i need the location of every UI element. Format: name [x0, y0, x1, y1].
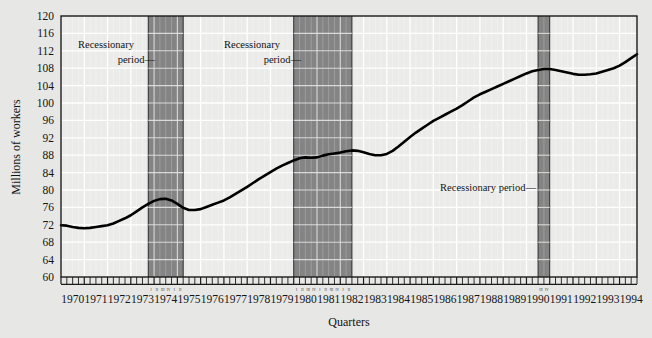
employment-line-chart: 12011611210810410096928884807672686460 1… — [0, 0, 652, 338]
svg-text:64: 64 — [43, 254, 55, 266]
svg-text:IV: IV — [312, 288, 316, 292]
svg-text:1970: 1970 — [61, 293, 84, 305]
svg-text:1989: 1989 — [503, 293, 526, 305]
chart-figure: 12011611210810410096928884807672686460 1… — [0, 0, 652, 338]
svg-text:88: 88 — [43, 149, 55, 161]
x-axis-tick-labels: 1970197119721973197419751976197719781979… — [61, 293, 643, 305]
svg-text:1979: 1979 — [271, 293, 294, 305]
y-axis-title: Millions of workers — [9, 99, 23, 195]
svg-text:III: III — [161, 288, 164, 292]
annotation-2-line2: period— — [264, 54, 302, 65]
svg-text:II: II — [348, 288, 350, 292]
svg-text:II: II — [301, 288, 303, 292]
svg-text:1988: 1988 — [480, 293, 503, 305]
annotation-1-line2: period— — [118, 54, 156, 65]
svg-text:I: I — [343, 288, 344, 292]
svg-text:100: 100 — [37, 97, 55, 109]
svg-text:84: 84 — [43, 167, 55, 179]
svg-text:I: I — [151, 288, 152, 292]
svg-text:96: 96 — [43, 114, 55, 126]
svg-text:108: 108 — [37, 62, 55, 74]
svg-text:1994: 1994 — [620, 293, 643, 305]
svg-text:1972: 1972 — [108, 293, 131, 305]
svg-text:1992: 1992 — [573, 293, 596, 305]
svg-text:1974: 1974 — [154, 293, 177, 305]
svg-text:112: 112 — [37, 45, 54, 57]
svg-text:1993: 1993 — [596, 293, 619, 305]
svg-text:II: II — [325, 288, 327, 292]
svg-text:1976: 1976 — [201, 293, 224, 305]
svg-text:IV: IV — [336, 288, 340, 292]
svg-text:IV: IV — [167, 288, 171, 292]
svg-text:II: II — [179, 288, 181, 292]
svg-text:1977: 1977 — [224, 293, 247, 305]
svg-text:1990: 1990 — [527, 293, 550, 305]
svg-text:1981: 1981 — [317, 293, 340, 305]
svg-text:68: 68 — [43, 236, 55, 248]
svg-text:120: 120 — [37, 10, 55, 22]
svg-text:II: II — [156, 288, 158, 292]
annotation-3-line1: Recessionary period— — [440, 182, 536, 193]
svg-text:1987: 1987 — [457, 293, 480, 305]
annotation-2-line1: Recessionary — [224, 39, 281, 50]
svg-text:1975: 1975 — [178, 293, 201, 305]
annotation-1-line1: Recessionary — [78, 39, 135, 50]
svg-text:116: 116 — [37, 27, 54, 39]
svg-text:76: 76 — [43, 201, 55, 213]
svg-text:1986: 1986 — [434, 293, 457, 305]
svg-text:I: I — [174, 288, 175, 292]
svg-text:III: III — [307, 288, 310, 292]
svg-text:92: 92 — [43, 132, 55, 144]
svg-text:I: I — [319, 288, 320, 292]
svg-text:1973: 1973 — [131, 293, 154, 305]
x-axis-title: Quarters — [328, 315, 370, 329]
svg-text:1985: 1985 — [410, 293, 433, 305]
svg-text:III: III — [330, 288, 333, 292]
svg-text:1980: 1980 — [294, 293, 317, 305]
svg-text:III: III — [539, 288, 542, 292]
svg-text:1984: 1984 — [387, 293, 410, 305]
svg-text:1991: 1991 — [550, 293, 573, 305]
annotation-recession-3: Recessionary period— — [440, 182, 536, 193]
svg-text:IV: IV — [545, 288, 549, 292]
svg-text:1983: 1983 — [364, 293, 387, 305]
svg-text:80: 80 — [43, 184, 55, 196]
svg-text:60: 60 — [43, 271, 55, 283]
svg-text:1971: 1971 — [84, 293, 107, 305]
svg-text:1978: 1978 — [247, 293, 270, 305]
svg-text:104: 104 — [37, 80, 55, 92]
svg-text:72: 72 — [43, 219, 55, 231]
svg-text:1982: 1982 — [340, 293, 363, 305]
svg-text:I: I — [296, 288, 297, 292]
